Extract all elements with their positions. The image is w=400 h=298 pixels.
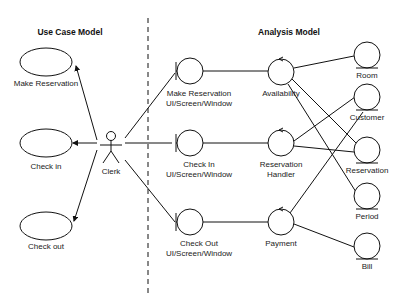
boundary-label-line1: Check Out [166,239,232,249]
boundary-icon-check-out[interactable] [176,209,203,235]
assoc-clerk-make-reservation [76,66,97,140]
boundary-label: Check Out UI/Screen/Window [166,239,232,259]
boundary-label: Make Reservation UI/Screen/Window [166,89,232,109]
use-case-model-title: Use Case Model [37,27,102,37]
assoc-availability-reservation [292,79,356,143]
entity-label: Period [355,212,378,222]
use-case-check-in[interactable] [20,129,72,157]
assoc-availability-room [294,56,354,68]
control-icon-payment[interactable] [268,207,294,235]
use-case-label: Check in [30,162,61,172]
control-label-line1: Reservation [260,160,303,170]
control-label: Payment [265,239,297,249]
control-label-line1: Payment [265,239,297,249]
analysis-model-title: Analysis Model [258,27,320,37]
control-label: Availability [262,89,300,99]
entity-label: Reservation [346,166,389,176]
boundary-label-line1: Check In [166,160,232,170]
entity-label: Customer [350,113,385,123]
actor-label: Clerk [102,167,121,177]
entity-icon-bill[interactable] [354,233,380,259]
boundary-label-line2: UI/Screen/Window [166,249,232,259]
boundary-label-line2: UI/Screen/Window [166,170,232,180]
use-case-make-reservation[interactable] [20,48,72,76]
control-label-line2: Handler [260,170,303,180]
entity-label: Bill [362,262,373,272]
use-case-check-out[interactable] [20,212,72,240]
boundary-label-line1: Make Reservation [166,89,232,99]
entity-label: Room [356,71,377,81]
assoc-handler-reservation [294,146,354,152]
entity-icon-period[interactable] [354,183,380,209]
uml-diagram: Use Case Model Analysis Model Make Reser… [0,0,400,298]
use-case-label: Check out [28,242,64,252]
boundary-icon-make-reservation[interactable] [176,58,203,84]
boundary-label: Check In UI/Screen/Window [166,160,232,180]
boundary-label-line2: UI/Screen/Window [166,99,232,109]
assoc-payment-bill [294,224,354,247]
entity-icon-customer[interactable] [354,84,380,110]
use-case-label: Make Reservation [14,79,78,89]
actor-icon[interactable] [100,132,122,164]
control-icon-reservation-handler[interactable] [268,128,294,156]
control-label: Reservation Handler [260,160,303,180]
control-icon-availability[interactable] [268,57,294,85]
assoc-handler-customer [294,97,355,141]
assoc-clerk-check-out [74,150,97,221]
entity-icon-reservation[interactable] [354,137,380,163]
entity-icon-room[interactable] [354,42,380,68]
control-label-line1: Availability [262,89,300,99]
boundary-icon-check-in[interactable] [176,130,203,156]
